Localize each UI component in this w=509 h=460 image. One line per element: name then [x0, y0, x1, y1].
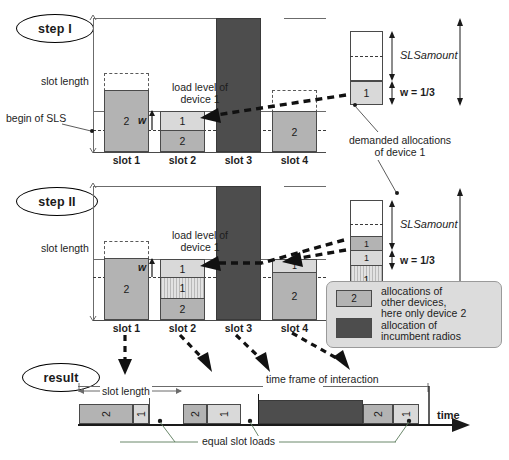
result-equal-slot-loads-label: equal slot loads	[198, 436, 279, 448]
result-equal-loads-leaders	[0, 0, 509, 460]
sls-allocation-diagram: step I 2 slot 1 1 2 slot 2 slot 3 2 slot…	[0, 0, 509, 460]
